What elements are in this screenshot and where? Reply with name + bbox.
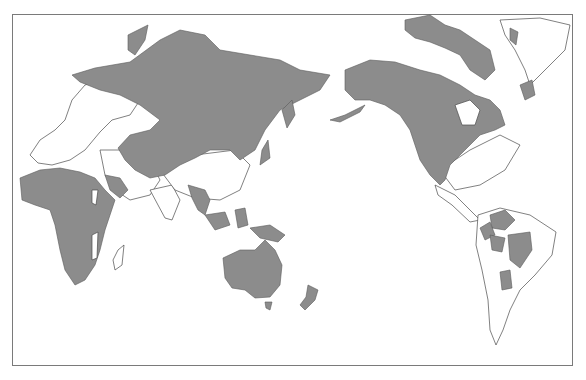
south-america-patch-5 bbox=[500, 270, 512, 290]
alaska-chain-region bbox=[330, 105, 365, 122]
madagascar-landmass bbox=[113, 245, 124, 270]
tasmania-region bbox=[265, 302, 272, 310]
novaya-zemlya-region bbox=[128, 25, 148, 55]
africa-lake-2 bbox=[92, 232, 98, 260]
new-guinea-region bbox=[250, 225, 285, 242]
africa-region bbox=[20, 168, 115, 285]
central-america-landmass bbox=[435, 185, 480, 222]
world-map bbox=[0, 0, 586, 380]
south-america-patch-3 bbox=[490, 235, 505, 252]
japan-region bbox=[260, 140, 270, 165]
indonesia-region bbox=[205, 208, 248, 230]
australia-region bbox=[223, 240, 282, 298]
new-zealand-region bbox=[300, 285, 318, 310]
